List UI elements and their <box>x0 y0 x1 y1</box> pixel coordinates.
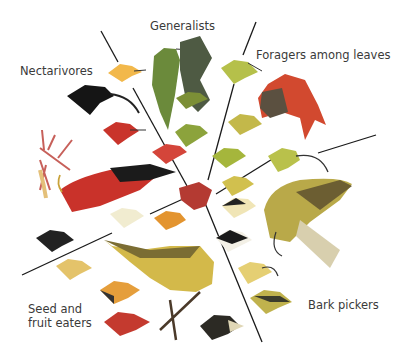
divider-line <box>208 84 234 180</box>
group-label-seed-fruit-eaters: Seed and fruit eaters <box>28 302 92 330</box>
branch <box>160 292 200 340</box>
group-label-generalists: Generalists <box>150 19 215 33</box>
bird-head <box>238 262 272 284</box>
bird-head <box>100 281 140 304</box>
bird-head <box>175 124 208 147</box>
group-label-foragers: Foragers among leaves <box>256 48 391 62</box>
flower <box>40 130 72 190</box>
bird-head <box>212 148 246 168</box>
bird-head <box>104 312 150 336</box>
bird-wing <box>110 164 176 182</box>
generalist-birds <box>152 36 212 147</box>
bird-head <box>152 144 187 164</box>
honeycreeper-radiation-diagram: Generalists Foragers among leaves Nectar… <box>0 0 400 358</box>
bird-head <box>222 176 254 196</box>
forager-birds <box>212 60 328 172</box>
bark-picker-birds <box>216 176 352 314</box>
bird-head <box>221 60 258 84</box>
central-ancestor-head <box>179 182 212 210</box>
bird-head <box>56 259 92 280</box>
bird-head <box>268 148 300 172</box>
divider-line <box>243 22 256 55</box>
group-label-bark-pickers: Bark pickers <box>308 298 379 312</box>
bird-head <box>36 230 74 252</box>
bird-head <box>228 114 262 135</box>
bird-head <box>103 122 139 145</box>
bird-head <box>67 85 114 115</box>
bird-head <box>108 64 142 82</box>
group-label-nectarivores: Nectarivores <box>20 64 93 78</box>
bird-body <box>152 48 180 130</box>
divider-line <box>101 31 118 62</box>
divider-line <box>318 135 376 153</box>
bird-head <box>110 208 144 228</box>
branch <box>296 220 340 268</box>
bird-head <box>154 211 186 230</box>
